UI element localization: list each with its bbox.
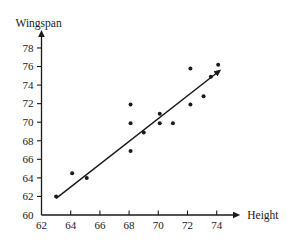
- data-point: [216, 63, 220, 67]
- data-point: [188, 103, 192, 107]
- data-point: [129, 121, 133, 125]
- trend-line-segment: [56, 73, 217, 198]
- data-point: [171, 121, 175, 125]
- data-point: [142, 130, 146, 134]
- data-point: [129, 149, 133, 153]
- x-tick-label: 62: [36, 219, 47, 231]
- y-tick-label: 78: [23, 42, 35, 54]
- y-tick-label: 66: [23, 153, 35, 165]
- x-axis: [42, 211, 235, 216]
- data-point: [158, 112, 162, 116]
- trend-line: [56, 73, 217, 198]
- x-axis-title: Height: [247, 209, 279, 222]
- x-tick-label: 70: [153, 219, 165, 231]
- x-tick-label: 74: [211, 219, 223, 231]
- data-points-group: [54, 63, 220, 199]
- y-tick-label: 70: [23, 116, 35, 128]
- y-tick-label: 64: [23, 172, 35, 184]
- y-tick-label: 68: [23, 135, 35, 147]
- y-tick-label: 72: [23, 97, 34, 109]
- y-tick-label: 62: [23, 190, 34, 202]
- x-tick-label: 64: [65, 219, 77, 231]
- y-tick-label: 74: [23, 79, 35, 91]
- data-point: [188, 66, 192, 70]
- data-point: [158, 121, 162, 125]
- x-axis-tick-labels: 62646668707274: [36, 219, 223, 231]
- x-tick-label: 66: [94, 219, 106, 231]
- y-axis-title: Wingspan: [16, 17, 62, 30]
- scatter-plot-figure: 60626466687072747678 62646668707274 Wing…: [0, 0, 291, 247]
- x-tick-label: 72: [182, 219, 193, 231]
- y-axis: [37, 36, 42, 215]
- plot-canvas: 60626466687072747678 62646668707274 Wing…: [0, 0, 291, 247]
- y-tick-label: 60: [23, 209, 35, 221]
- data-point: [85, 176, 89, 180]
- data-point: [129, 103, 133, 107]
- x-tick-label: 68: [124, 219, 136, 231]
- y-axis-tick-labels: 60626466687072747678: [23, 42, 35, 221]
- data-point: [70, 171, 74, 175]
- data-point: [202, 94, 206, 98]
- data-point: [209, 75, 213, 79]
- y-tick-label: 76: [23, 60, 35, 72]
- data-point: [54, 194, 58, 198]
